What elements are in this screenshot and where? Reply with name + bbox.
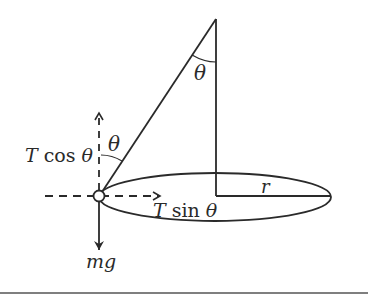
radius-label: r: [261, 176, 271, 197]
theta-apex-label: θ: [194, 61, 206, 85]
t-sin-label: T sin θ: [153, 199, 218, 221]
t-cos-label: T cos θ: [25, 144, 94, 166]
conical-pendulum-diagram: θ θ T cos θ T sin θ r mg: [0, 0, 368, 298]
weight-label: mg: [86, 250, 116, 272]
string-line: [102, 19, 216, 192]
theta-bob-label: θ: [108, 132, 120, 156]
bob: [94, 191, 105, 202]
